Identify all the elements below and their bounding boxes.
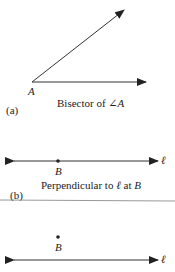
separator-line (0, 200, 175, 201)
point-b-on-line (56, 159, 60, 163)
caption-mid: at (121, 179, 134, 191)
line-label-b: ℓ (161, 155, 166, 166)
angle-symbol: ∠ (108, 97, 117, 109)
line-c (14, 235, 158, 260)
caption-perpendicular: Perpendicular to ℓ at B (41, 180, 141, 191)
point-label-c: B (55, 242, 62, 253)
panel-label-a: (a) (6, 105, 18, 116)
caption-text: Perpendicular to (41, 179, 116, 191)
point-label-b: B (55, 166, 62, 177)
caption-var: A (118, 97, 125, 109)
panel-label-b: (b) (10, 190, 23, 201)
caption-bisector: Bisector of ∠A (57, 98, 124, 109)
caption-text: Bisector of (57, 97, 108, 109)
line-label-c: ℓ (161, 254, 166, 265)
vertex-label-a: A (28, 86, 35, 97)
geometry-figures (0, 0, 175, 272)
upper-ray (32, 10, 124, 82)
point-b-off-line (56, 235, 60, 239)
angle-a (32, 10, 146, 82)
caption-point: B (134, 179, 141, 191)
line-b (14, 159, 158, 163)
